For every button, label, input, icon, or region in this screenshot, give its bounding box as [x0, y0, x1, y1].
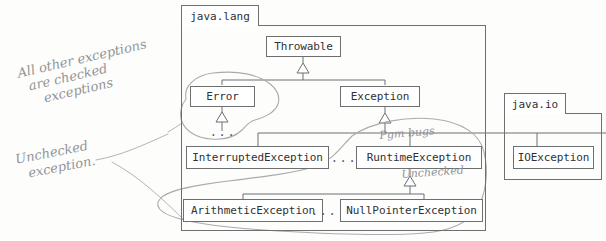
leader-line-checked — [168, 123, 182, 132]
package-label-java-lang: java.lang — [190, 10, 250, 23]
leader-line-unchecked — [96, 134, 168, 160]
package-tab-java-lang: java.lang — [181, 5, 259, 26]
package-label-java-io: java.io — [512, 98, 558, 111]
package-body-java-lang — [181, 25, 486, 231]
package-tab-java-io: java.io — [504, 93, 566, 114]
leader-line-unchecked-2 — [112, 162, 186, 222]
diagram-canvas: java.lang java.io Throwable Error Except… — [0, 0, 606, 241]
package-body-java-io — [504, 113, 602, 180]
